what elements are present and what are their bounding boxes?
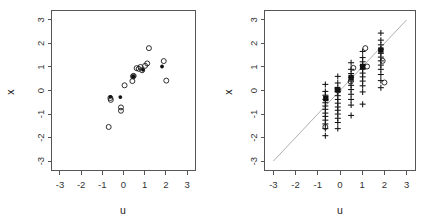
point-open-circle xyxy=(164,78,169,83)
point-plus xyxy=(335,120,341,126)
x-ticklabel: -1 xyxy=(314,179,322,190)
x-ticklabel: 0 xyxy=(121,179,126,190)
point-plus xyxy=(348,112,354,118)
point-solid-circle xyxy=(131,74,135,78)
left-x-ticks xyxy=(60,171,187,175)
right-data-points xyxy=(322,30,387,139)
point-open-circle xyxy=(382,80,387,85)
x-ticklabel: 1 xyxy=(360,179,365,190)
scatter-plot-figure: -3-2-10123 -3-2-10123 u x -3-2-10123 -3-… xyxy=(0,0,443,221)
x-ticklabel: -1 xyxy=(98,179,106,190)
left-y-ticks xyxy=(48,20,52,161)
series-imputation-mean xyxy=(323,47,383,101)
point-open-circle xyxy=(130,79,135,84)
point-plus xyxy=(348,102,354,108)
y-ticklabel: 1 xyxy=(35,64,46,69)
point-plus xyxy=(348,91,354,97)
series-observed xyxy=(323,46,387,130)
left-y-axis-title: x xyxy=(4,89,16,95)
point-plus xyxy=(335,126,341,132)
point-plus xyxy=(335,73,341,79)
point-filled-square xyxy=(323,96,328,101)
y-ticklabel: 1 xyxy=(248,64,259,69)
point-plus xyxy=(348,96,354,102)
x-ticklabel: -2 xyxy=(291,179,299,190)
point-solid-circle xyxy=(141,68,145,72)
y-ticklabel: 3 xyxy=(35,17,46,22)
y-ticklabel: -2 xyxy=(35,133,46,141)
left-panel: -3-2-10123 -3-2-10123 u x xyxy=(0,0,222,221)
point-open-circle xyxy=(161,59,166,64)
right-y-ticks xyxy=(261,20,265,161)
x-ticklabel: 0 xyxy=(337,179,342,190)
point-open-circle xyxy=(146,46,151,51)
left-x-ticklabels: -3-2-10123 xyxy=(56,179,190,190)
y-ticklabel: -3 xyxy=(248,157,259,165)
point-plus xyxy=(378,30,384,36)
right-y-ticklabels: -3-2-10123 xyxy=(248,17,259,165)
x-ticklabel: -2 xyxy=(77,179,85,190)
x-ticklabel: 2 xyxy=(163,179,168,190)
left-y-ticklabels: -3-2-10123 xyxy=(35,17,46,165)
y-ticklabel: 0 xyxy=(35,88,46,93)
point-open-circle xyxy=(122,83,127,88)
series-imputed xyxy=(322,30,384,139)
point-plus xyxy=(348,60,354,66)
right-panel: -3-2-10123 -3-2-10123 u x xyxy=(222,0,443,221)
point-plus xyxy=(360,101,366,107)
point-open-circle xyxy=(106,124,111,129)
x-ticklabel: 3 xyxy=(184,179,189,190)
point-solid-circle xyxy=(160,65,164,69)
point-open-circle xyxy=(363,46,368,51)
left-data-points xyxy=(106,46,169,130)
x-ticklabel: 3 xyxy=(404,179,409,190)
point-plus xyxy=(378,72,384,78)
right-panel-svg: -3-2-10123 -3-2-10123 u x xyxy=(222,0,443,221)
y-ticklabel: 3 xyxy=(248,17,259,22)
y-ticklabel: 2 xyxy=(35,41,46,46)
x-ticklabel: 2 xyxy=(382,179,387,190)
y-ticklabel: -1 xyxy=(248,110,259,118)
y-ticklabel: 0 xyxy=(248,88,259,93)
left-panel-svg: -3-2-10123 -3-2-10123 u x xyxy=(0,0,222,221)
point-plus xyxy=(378,66,384,72)
y-ticklabel: -1 xyxy=(35,110,46,118)
right-x-axis-title: u xyxy=(337,204,343,216)
point-plus xyxy=(378,85,384,91)
right-y-axis-title: x xyxy=(222,89,234,95)
point-plus xyxy=(322,133,328,139)
y-ticklabel: -3 xyxy=(35,157,46,165)
point-plus xyxy=(360,83,366,89)
point-plus xyxy=(335,80,341,86)
point-solid-circle xyxy=(118,95,122,99)
x-ticklabel: 1 xyxy=(142,179,147,190)
right-x-ticks xyxy=(273,171,406,175)
left-x-axis-title: u xyxy=(120,204,126,216)
x-ticklabel: -3 xyxy=(56,179,64,190)
y-ticklabel: 2 xyxy=(248,41,259,46)
left-plot-frame xyxy=(52,11,196,171)
series-observed xyxy=(106,46,169,130)
point-plus xyxy=(360,89,366,95)
point-solid-circle xyxy=(108,95,112,99)
point-plus xyxy=(322,81,328,87)
point-filled-square xyxy=(378,47,383,52)
right-x-ticklabels: -3-2-10123 xyxy=(269,179,409,190)
point-open-circle xyxy=(118,108,123,113)
y-ticklabel: -2 xyxy=(248,133,259,141)
x-ticklabel: -3 xyxy=(269,179,277,190)
